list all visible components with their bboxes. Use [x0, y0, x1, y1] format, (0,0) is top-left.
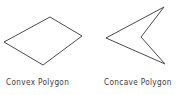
convex-polygon-shape	[4, 17, 82, 65]
convex-polygon-label: Convex Polygon	[6, 79, 69, 87]
concave-polygon-label: Concave Polygon	[104, 79, 172, 87]
concave-polygon-shape	[106, 7, 165, 64]
polygon-comparison-figure: Convex Polygon Concave Polygon	[0, 0, 181, 95]
